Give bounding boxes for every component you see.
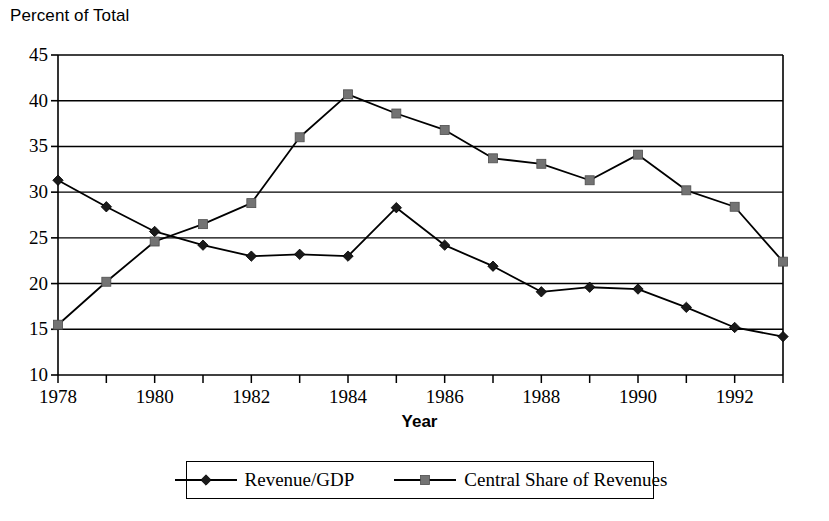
data-point-marker: [150, 237, 159, 246]
chart-container: Percent of Total 1015202530354045 197819…: [0, 0, 829, 521]
legend-square-marker-icon: [392, 472, 458, 488]
data-point-marker: [344, 90, 353, 99]
data-point-marker: [440, 125, 449, 134]
data-point-marker: [200, 475, 210, 485]
data-point-marker: [102, 277, 111, 286]
data-point-marker: [199, 220, 208, 229]
x-axis-tick-label: 1990: [619, 386, 657, 408]
series-1: [53, 175, 788, 342]
data-point-marker: [489, 154, 498, 163]
plot-area-svg: [0, 0, 829, 521]
x-axis-tick-label: 1982: [232, 386, 270, 408]
x-axis-title: Year: [0, 412, 829, 432]
data-point-marker: [488, 261, 498, 271]
data-point-marker: [421, 476, 430, 485]
x-axis-tick-label: 1978: [39, 386, 77, 408]
series-2: [54, 90, 788, 329]
data-point-marker: [634, 150, 643, 159]
x-axis-title-text: Year: [402, 412, 438, 431]
data-point-marker: [101, 202, 111, 212]
data-point-marker: [392, 109, 401, 118]
data-point-marker: [729, 322, 739, 332]
legend-item-2: Central Share of Revenues: [392, 469, 667, 491]
data-point-marker: [246, 251, 256, 261]
series-line-1: [58, 180, 783, 336]
y-axis-tick-label: 10: [12, 364, 48, 386]
data-point-marker: [633, 284, 643, 294]
data-point-marker: [682, 186, 691, 195]
x-axis-tick-label: 1992: [716, 386, 754, 408]
data-point-marker: [247, 199, 256, 208]
x-axis-tick-label: 1984: [329, 386, 367, 408]
data-point-marker: [730, 202, 739, 211]
y-axis-tick-label: 30: [12, 181, 48, 203]
data-point-marker: [536, 287, 546, 297]
y-axis-tick-label: 35: [12, 135, 48, 157]
x-axis-tick-label: 1988: [522, 386, 560, 408]
y-axis-tick-label: 40: [12, 90, 48, 112]
series-line-2: [58, 94, 783, 324]
data-point-marker: [537, 159, 546, 168]
data-point-marker: [198, 240, 208, 250]
data-point-marker: [149, 226, 159, 236]
gridlines: [58, 55, 783, 375]
x-axis-tick-label: 1980: [136, 386, 174, 408]
x-tick-marks: [58, 375, 783, 383]
axes: [58, 55, 783, 375]
data-point-marker: [294, 249, 304, 259]
data-point-marker: [778, 331, 788, 341]
y-axis-tick-label: 45: [12, 44, 48, 66]
legend-item-1: Revenue/GDP: [173, 469, 355, 491]
x-axis-tick-label: 1986: [426, 386, 464, 408]
y-axis-tick-label: 15: [12, 318, 48, 340]
data-point-marker: [779, 257, 788, 266]
y-axis-tick-label: 25: [12, 227, 48, 249]
legend-diamond-marker-icon: [173, 472, 239, 488]
data-point-marker: [295, 133, 304, 142]
data-point-marker: [54, 320, 63, 329]
legend-label: Central Share of Revenues: [464, 469, 667, 491]
y-axis-tick-label: 20: [12, 273, 48, 295]
data-point-marker: [585, 176, 594, 185]
data-point-marker: [53, 175, 63, 185]
data-point-marker: [681, 302, 691, 312]
chart-legend: Revenue/GDPCentral Share of Revenues: [186, 461, 654, 499]
legend-label: Revenue/GDP: [245, 469, 355, 491]
